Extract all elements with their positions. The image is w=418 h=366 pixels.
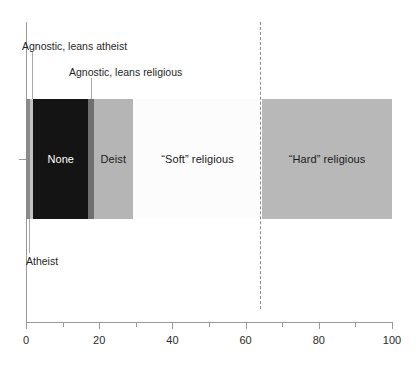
bar-segment-soft-religious: “Soft” religious <box>133 99 262 219</box>
x-tick-90 <box>355 322 356 327</box>
annotation-agnostic-leans-atheist: Agnostic, leans atheist <box>22 40 127 52</box>
x-tick-label-80: 80 <box>313 334 325 346</box>
bar-segment-label-hard-religious: “Hard” religious <box>289 153 366 165</box>
bar-segment-label-none: None <box>47 153 74 165</box>
x-tick-30 <box>136 322 137 327</box>
leader-line-atheist <box>29 219 30 253</box>
x-tick-40 <box>172 322 173 329</box>
x-tick-80 <box>319 322 320 329</box>
x-tick-label-100: 100 <box>383 334 401 346</box>
x-tick-label-60: 60 <box>239 334 251 346</box>
x-tick-100 <box>392 322 393 329</box>
x-tick-0 <box>26 322 27 329</box>
x-tick-50 <box>209 322 210 327</box>
leader-line-agnostic-leans-religious <box>91 78 92 99</box>
x-tick-10 <box>63 322 64 327</box>
bar-segment-none: None <box>33 99 88 219</box>
x-tick-label-40: 40 <box>166 334 178 346</box>
annotation-atheist: Atheist <box>26 255 58 267</box>
stacked-bar: None Deist “Soft” religious “Hard” relig… <box>26 99 392 219</box>
bar-segment-label-deist: Deist <box>101 153 127 165</box>
leader-line-agnostic-leans-atheist <box>32 52 33 99</box>
bar-segment-hard-religious: “Hard” religious <box>262 99 392 219</box>
x-tick-label-0: 0 <box>23 334 29 346</box>
x-tick-60 <box>246 322 247 329</box>
annotation-agnostic-leans-religious: Agnostic, leans religious <box>69 66 182 78</box>
reference-line-dashed <box>260 22 261 309</box>
bar-segment-label-soft-religious: “Soft” religious <box>161 153 234 165</box>
y-axis-tick <box>19 159 26 160</box>
bar-segment-deist: Deist <box>94 99 133 219</box>
x-tick-20 <box>99 322 100 329</box>
stacked-bar-chart: 0 20 40 60 80 100 None Deist “Soft” reli… <box>0 0 418 366</box>
x-tick-label-20: 20 <box>93 334 105 346</box>
x-tick-70 <box>282 322 283 327</box>
